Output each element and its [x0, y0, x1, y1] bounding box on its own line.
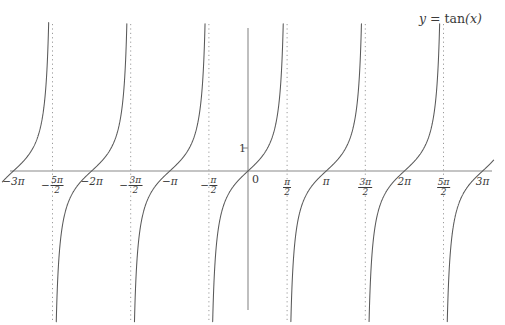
tan-branch-4: [291, 24, 362, 322]
tan-function-plot: y = tan(x) 1 0 −3π−5π2−2π−3π2−π−π2π2π3π2…: [0, 0, 505, 325]
title-lhs: y: [419, 11, 426, 26]
x-tick-label-1: −5π2: [41, 176, 64, 195]
origin-label: 0: [252, 174, 259, 185]
x-tick-label-11: 5π2: [437, 176, 451, 197]
x-tick-label-3: −3π2: [119, 176, 142, 195]
x-tick-label-10: 2π: [398, 176, 412, 187]
title-argument: (x): [465, 11, 482, 26]
tan-branch-5: [369, 24, 440, 322]
tan-branch-1: [56, 24, 127, 322]
x-tick-label-2: −2π: [80, 176, 102, 187]
x-tick-label-12: 3π: [476, 176, 490, 187]
title-equals: =: [430, 11, 440, 26]
x-tick-label-8: π: [323, 176, 330, 187]
y-tick-label-1: 1: [239, 143, 246, 154]
x-tick-label-9: 3π2: [358, 176, 372, 197]
tan-branch-2: [134, 24, 205, 322]
x-tick-label-5: −π2: [200, 176, 217, 195]
plot-title: y = tan(x): [419, 13, 482, 26]
plot-canvas: [0, 0, 505, 325]
x-tick-label-7: π2: [283, 176, 291, 197]
title-function-name: tan: [445, 11, 466, 26]
tan-branch-0: [2, 23, 48, 182]
x-tick-label-4: −π: [162, 176, 178, 187]
x-tick-label-0: −3π: [2, 176, 24, 187]
